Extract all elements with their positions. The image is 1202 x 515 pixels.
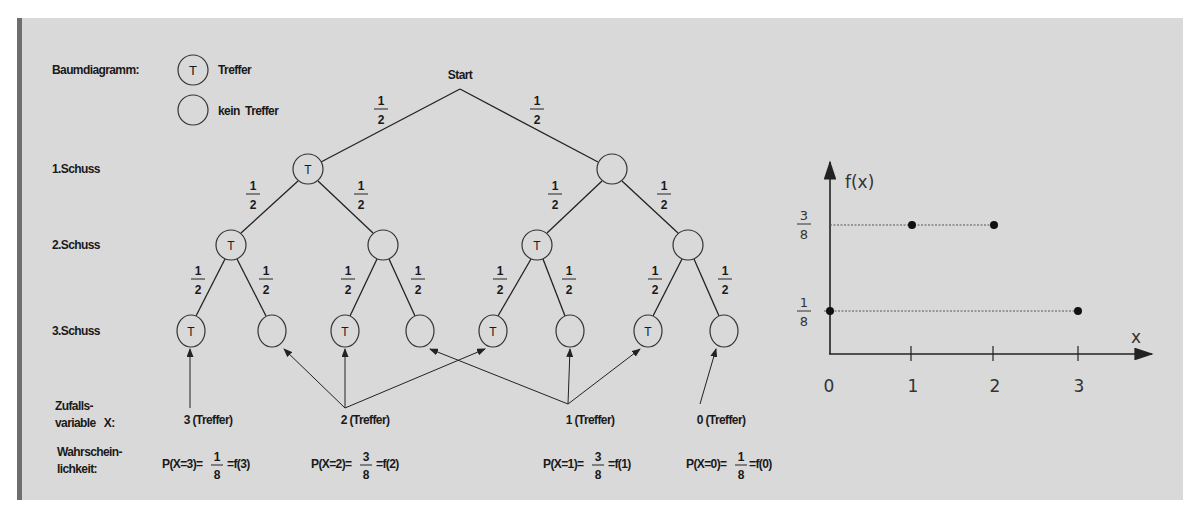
prob-fraction: 12 <box>411 264 425 297</box>
y-axis-label: f(x) <box>845 172 874 192</box>
prob-formula-1: P(X=1)= 3 8 =f(1) <box>543 450 631 482</box>
x-tick-1: 1 <box>908 376 919 396</box>
miss-node-icon <box>178 95 208 125</box>
x-tick-2: 2 <box>990 376 1001 396</box>
svg-text:1: 1 <box>497 264 504 278</box>
row-label-shot-3: 3.Schuss <box>52 324 101 338</box>
svg-text:T: T <box>533 239 541 253</box>
svg-text:=f(0): =f(0) <box>749 457 772 471</box>
svg-text:1: 1 <box>552 179 559 193</box>
svg-text:1: 1 <box>378 94 385 108</box>
svg-text:8: 8 <box>738 468 745 482</box>
prob-formula-0: P(X=0)= 1 8 =f(0) <box>686 450 772 482</box>
data-point-x2 <box>990 221 998 229</box>
prob-fraction: 12 <box>191 264 205 297</box>
data-point-x1 <box>908 221 916 229</box>
row-label-shot-2: 2.Schuss <box>52 238 101 252</box>
svg-text:1: 1 <box>738 450 745 464</box>
legend: Baumdiagramm: T Treffer kein Treffer <box>52 55 279 125</box>
figure-canvas: Baumdiagramm: T Treffer kein Treffer 1.S… <box>0 0 1202 515</box>
svg-text:T: T <box>304 163 312 177</box>
prob-formula-3: P(X=3)= 1 8 =f(3) <box>162 450 250 482</box>
edge-probabilities: 12 12 12 12 12 12 12 12 12 12 12 12 12 1… <box>191 94 732 297</box>
svg-text:1: 1 <box>250 179 257 193</box>
svg-text:P(X=2)=: P(X=2)= <box>311 457 352 471</box>
prob-fraction: 12 <box>354 179 368 212</box>
svg-text:1: 1 <box>195 264 202 278</box>
tree-node-miss <box>258 315 286 347</box>
svg-text:8: 8 <box>214 468 221 482</box>
svg-text:2: 2 <box>263 283 270 297</box>
x-axis-label: x <box>1131 327 1141 347</box>
svg-text:1: 1 <box>661 179 668 193</box>
svg-text:1: 1 <box>358 179 365 193</box>
prob-formula-2: P(X=2)= 3 8 =f(2) <box>311 450 399 482</box>
tree-node-miss <box>368 230 398 260</box>
svg-text:=f(2): =f(2) <box>376 457 399 471</box>
tree-node-miss <box>406 315 434 347</box>
svg-text:1: 1 <box>263 264 270 278</box>
svg-text:2: 2 <box>378 113 385 127</box>
probability-plot: f(x) x 0 1 2 3 3 8 1 8 <box>797 162 1152 396</box>
svg-text:1: 1 <box>652 264 659 278</box>
svg-text:8: 8 <box>800 314 808 329</box>
random-variable-label-2: variable X: <box>55 416 115 430</box>
tree-node-miss <box>556 315 584 347</box>
svg-text:2: 2 <box>552 198 559 212</box>
tree-level-2: T T <box>216 230 703 260</box>
svg-text:2: 2 <box>250 198 257 212</box>
svg-text:P(X=3)=: P(X=3)= <box>162 457 203 471</box>
miss-label: kein Treffer <box>218 104 279 118</box>
prob-fraction: 12 <box>530 94 544 127</box>
prob-fraction: 12 <box>374 94 388 127</box>
probability-label-2: lichkeit: <box>57 462 97 476</box>
hit-symbol: T <box>189 63 197 78</box>
prob-fraction: 12 <box>657 179 671 212</box>
tree-level-3: T T T T <box>177 315 738 347</box>
prob-fraction: 12 <box>648 264 662 297</box>
x-tick-3: 3 <box>1074 376 1085 396</box>
tree-node-miss <box>597 154 627 184</box>
svg-text:=f(1): =f(1) <box>608 457 631 471</box>
svg-text:2: 2 <box>566 283 573 297</box>
prob-fraction: 12 <box>562 264 576 297</box>
hit-label: Treffer <box>218 63 252 77</box>
svg-text:1: 1 <box>722 264 729 278</box>
svg-text:1: 1 <box>345 264 352 278</box>
prob-fraction: 12 <box>493 264 507 297</box>
prob-fraction: 12 <box>548 179 562 212</box>
svg-text:8: 8 <box>595 468 602 482</box>
svg-text:2: 2 <box>415 283 422 297</box>
tree-level-1: T <box>293 154 627 184</box>
svg-text:2: 2 <box>358 198 365 212</box>
x-value-3: 3 (Treffer) <box>184 413 233 427</box>
svg-text:1: 1 <box>566 264 573 278</box>
svg-text:3: 3 <box>800 208 808 223</box>
svg-text:1: 1 <box>800 295 808 310</box>
y-tick-3-8: 3 8 <box>797 208 811 242</box>
svg-text:T: T <box>187 325 195 339</box>
tree-node-miss <box>710 315 738 347</box>
x-value-2: 2 (Treffer) <box>341 413 390 427</box>
random-variable-label: Zufalls- <box>55 399 93 413</box>
svg-text:T: T <box>227 239 235 253</box>
svg-text:3: 3 <box>595 450 602 464</box>
svg-text:T: T <box>341 325 349 339</box>
svg-text:2: 2 <box>652 283 659 297</box>
svg-text:8: 8 <box>800 227 808 242</box>
outcome-arrows <box>190 349 716 408</box>
svg-text:P(X=1)=: P(X=1)= <box>543 457 584 471</box>
svg-text:1: 1 <box>214 450 221 464</box>
legend-hit: T Treffer <box>178 55 252 85</box>
probability-label: Wahrschein- <box>57 445 123 459</box>
tree-root-label: Start <box>448 68 473 82</box>
row-label-shot-1: 1.Schuss <box>52 162 101 176</box>
svg-text:2: 2 <box>195 283 202 297</box>
svg-text:T: T <box>489 325 497 339</box>
svg-text:2: 2 <box>722 283 729 297</box>
svg-text:2: 2 <box>345 283 352 297</box>
svg-text:1: 1 <box>415 264 422 278</box>
x-tick-0: 0 <box>824 376 835 396</box>
legend-miss: kein Treffer <box>178 95 279 125</box>
prob-fraction: 12 <box>718 264 732 297</box>
